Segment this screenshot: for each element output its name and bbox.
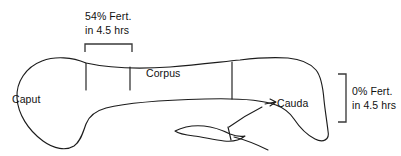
annotation-proximal-fertility: 54% Fert. in 4.5 hrs	[85, 10, 131, 38]
epididymis-diagram-figure: Caput Corpus Cauda 54% Fert. in 4.5 hrs …	[0, 0, 401, 156]
region-label-cauda: Cauda	[277, 98, 308, 110]
annotation-proximal-line1: 54% Fert.	[85, 10, 131, 24]
region-label-corpus: Corpus	[146, 68, 180, 80]
annotation-distal-line1: 0% Fert.	[352, 85, 396, 99]
bracket-distal-fertility	[338, 74, 346, 122]
annotation-distal-fertility: 0% Fert. in 4.5 hrs	[352, 85, 396, 113]
region-label-caput: Caput	[12, 94, 41, 106]
vas-deferens-outline	[175, 126, 245, 142]
bracket-proximal-fertility	[85, 44, 132, 52]
annotation-distal-line2: in 4.5 hrs	[352, 99, 396, 113]
annotation-proximal-line2: in 4.5 hrs	[85, 24, 131, 38]
duct-upper-stem	[229, 107, 262, 127]
diagram-canvas	[0, 0, 401, 156]
